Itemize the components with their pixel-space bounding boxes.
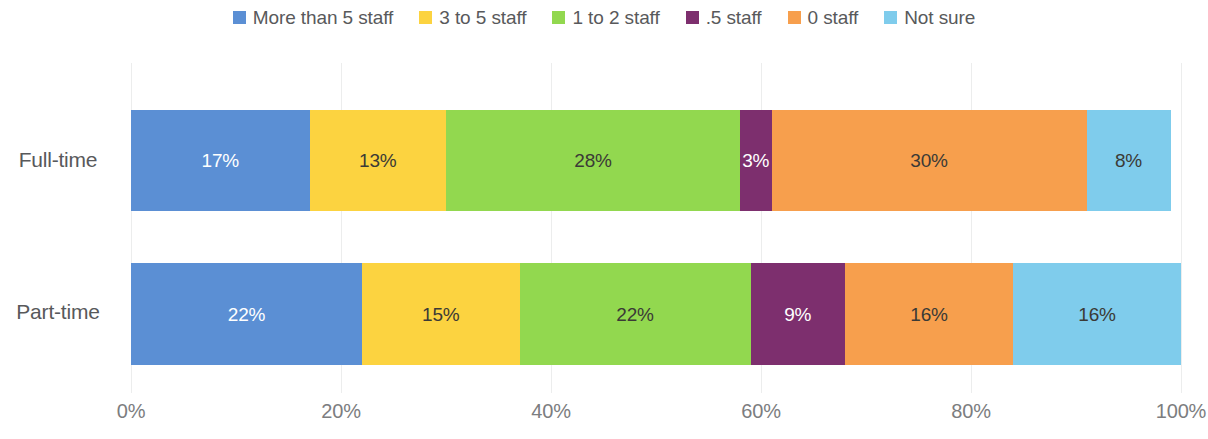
legend-label: 3 to 5 staff bbox=[439, 8, 526, 27]
bar-segment[interactable]: 8% bbox=[1087, 110, 1171, 211]
legend-swatch-icon bbox=[552, 11, 565, 24]
category-label-part-time: Part-time bbox=[0, 300, 118, 324]
legend-label: .5 staff bbox=[706, 8, 762, 27]
bar-segment-value-label: 13% bbox=[359, 151, 396, 170]
legend-label: Not sure bbox=[904, 8, 975, 27]
legend-item[interactable]: Not sure bbox=[884, 8, 975, 27]
bar-segment[interactable]: 3% bbox=[740, 110, 772, 211]
legend-item[interactable]: 1 to 2 staff bbox=[552, 8, 659, 27]
plot-area: 17%13%28%3%30%8% 22%15%22%9%16%16% bbox=[131, 63, 1181, 393]
legend-label: 1 to 2 staff bbox=[572, 8, 659, 27]
legend-item[interactable]: .5 staff bbox=[686, 8, 762, 27]
legend-label: More than 5 staff bbox=[253, 8, 394, 27]
chart-legend: More than 5 staff3 to 5 staff1 to 2 staf… bbox=[0, 4, 1208, 30]
bar-segment-value-label: 9% bbox=[784, 305, 811, 324]
bar-segment[interactable]: 15% bbox=[362, 263, 520, 365]
legend-swatch-icon bbox=[419, 11, 432, 24]
bar-segment-value-label: 16% bbox=[910, 305, 947, 324]
stacked-bar-chart: More than 5 staff3 to 5 staff1 to 2 staf… bbox=[0, 0, 1208, 439]
x-axis-tick-label: 20% bbox=[296, 400, 386, 423]
bar-segment[interactable]: 28% bbox=[446, 110, 740, 211]
legend-swatch-icon bbox=[884, 11, 897, 24]
bar-segment-value-label: 17% bbox=[202, 151, 239, 170]
bar-segment-value-label: 16% bbox=[1078, 305, 1115, 324]
bar-segment[interactable]: 16% bbox=[1013, 263, 1181, 365]
legend-item[interactable]: 3 to 5 staff bbox=[419, 8, 526, 27]
x-axis-tick-label: 100% bbox=[1136, 400, 1208, 423]
legend-swatch-icon bbox=[686, 11, 699, 24]
legend-item[interactable]: 0 staff bbox=[788, 8, 859, 27]
legend-swatch-icon bbox=[233, 11, 246, 24]
bar-segment[interactable]: 22% bbox=[131, 263, 362, 365]
bar-segment[interactable]: 22% bbox=[520, 263, 751, 365]
bar-segment-value-label: 22% bbox=[228, 305, 265, 324]
bar-segment[interactable]: 13% bbox=[310, 110, 447, 211]
bar-row: 17%13%28%3%30%8% bbox=[131, 110, 1181, 211]
category-label-full-time: Full-time bbox=[0, 148, 118, 172]
bar-segment-value-label: 8% bbox=[1115, 151, 1142, 170]
bar-segment-value-label: 30% bbox=[910, 151, 947, 170]
bar-segment[interactable]: 9% bbox=[751, 263, 846, 365]
bar-segment[interactable]: 16% bbox=[845, 263, 1013, 365]
bar-segment[interactable]: 17% bbox=[131, 110, 310, 211]
x-axis-tick-label: 80% bbox=[926, 400, 1016, 423]
x-axis-tick-label: 60% bbox=[716, 400, 806, 423]
x-axis: 0%20%40%60%80%100% bbox=[131, 400, 1181, 430]
legend-label: 0 staff bbox=[808, 8, 859, 27]
bar-segment[interactable]: 30% bbox=[772, 110, 1087, 211]
bar-segment-value-label: 3% bbox=[742, 151, 769, 170]
bar-segment-value-label: 22% bbox=[616, 305, 653, 324]
gridline bbox=[1181, 63, 1182, 393]
bar-row: 22%15%22%9%16%16% bbox=[131, 263, 1181, 365]
x-axis-tick-label: 0% bbox=[86, 400, 176, 423]
legend-swatch-icon bbox=[788, 11, 801, 24]
bar-segment-value-label: 28% bbox=[574, 151, 611, 170]
bar-segment-value-label: 15% bbox=[422, 305, 459, 324]
legend-item[interactable]: More than 5 staff bbox=[233, 8, 394, 27]
x-axis-tick-label: 40% bbox=[506, 400, 596, 423]
